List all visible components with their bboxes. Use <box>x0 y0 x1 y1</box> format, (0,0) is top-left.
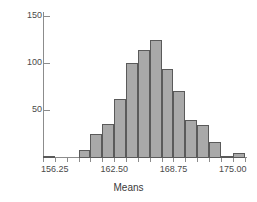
x-tick <box>79 158 80 162</box>
x-tick <box>67 158 68 162</box>
x-tick <box>173 158 174 162</box>
x-tick <box>90 158 91 162</box>
histogram-figure: 50100150 156.25162.50168.75175.00 Means <box>0 0 257 202</box>
y-tick-label-wrap: 50 <box>0 105 42 114</box>
histogram-bar <box>79 150 91 158</box>
histogram-bar <box>126 63 138 158</box>
x-tick <box>55 158 56 162</box>
x-tick-label-162.50: 162.50 <box>94 164 134 174</box>
histogram-bar <box>162 69 174 158</box>
histogram-bar <box>233 153 245 158</box>
x-tick <box>209 158 210 162</box>
x-tick <box>221 158 222 162</box>
histogram-bar <box>138 50 150 158</box>
y-tick-label: 150 <box>8 11 42 20</box>
histogram-bar <box>209 142 221 158</box>
x-tick <box>126 158 127 162</box>
x-tick <box>43 158 44 162</box>
x-tick <box>245 158 246 162</box>
x-tick-label-156.25: 156.25 <box>35 164 75 174</box>
x-tick <box>114 158 115 162</box>
histogram-bar <box>197 125 209 158</box>
y-tick-label: 100 <box>8 58 42 67</box>
x-tick-label-168.75: 168.75 <box>153 164 193 174</box>
x-axis-label: Means <box>0 182 257 193</box>
x-tick <box>185 158 186 162</box>
x-tick <box>102 158 103 162</box>
histogram-bars <box>43 12 247 158</box>
histogram-bar <box>43 156 55 158</box>
histogram-bar <box>90 134 102 158</box>
x-tick-label-175.00: 175.00 <box>213 164 253 174</box>
y-tick-label-wrap: 150 <box>0 11 42 20</box>
x-tick <box>150 158 151 162</box>
x-tick <box>233 158 234 162</box>
histogram-bar <box>185 120 197 158</box>
y-tick-label-wrap: 100 <box>0 58 42 67</box>
x-tick <box>197 158 198 162</box>
histogram-bar <box>114 99 126 158</box>
histogram-bar <box>150 40 162 158</box>
histogram-bar <box>102 124 114 158</box>
x-tick <box>138 158 139 162</box>
x-tick <box>162 158 163 162</box>
y-tick-label: 50 <box>8 105 42 114</box>
histogram-bar <box>173 91 185 158</box>
histogram-bar <box>221 156 233 158</box>
